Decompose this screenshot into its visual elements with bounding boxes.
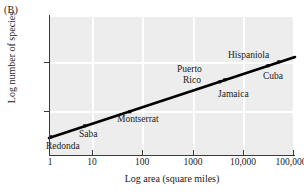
point-label-jamaica: Jamaica	[218, 89, 249, 100]
y-axis-line	[49, 15, 50, 156]
gridline-horizontal-30	[50, 111, 294, 113]
plot-area: Redonda Saba Montserrat Puerto Rico Jama…	[50, 17, 294, 155]
x-tick-10000	[243, 150, 244, 156]
gridline-horizontal-100	[50, 62, 294, 64]
point-label-puerto-rico-line2: Rico	[183, 75, 201, 86]
gridline-vertical-10000	[243, 17, 245, 155]
point-label-redonda: Redonda	[46, 141, 80, 152]
datapoint-jamaica	[223, 78, 226, 81]
y-axis-title: Log number of species	[6, 0, 17, 122]
datapoint-puerto-rico	[218, 80, 221, 83]
point-label-montserrat: Montserrat	[117, 114, 159, 125]
point-label-hispaniola: Hispaniola	[228, 50, 269, 61]
gridline-vertical-100	[142, 17, 144, 155]
x-tick-100000	[293, 150, 294, 156]
y-tick-30	[44, 111, 50, 112]
point-label-saba: Saba	[79, 129, 97, 140]
datapoint-saba	[83, 124, 86, 127]
figure-panel-b: (B) Redonda Saba Montserrat Puerto Rico …	[0, 0, 304, 192]
x-ticklabel-100: 100	[135, 157, 149, 167]
x-ticklabel-10000: 10,000	[230, 157, 256, 167]
datapoint-hispaniola	[266, 64, 269, 67]
x-ticklabel-1000: 1000	[184, 157, 203, 167]
x-axis-title: Log area (square miles)	[50, 173, 294, 184]
datapoint-cuba	[277, 60, 280, 63]
point-label-puerto-rico-line1: Puerto	[177, 64, 202, 75]
x-tick-100	[142, 150, 143, 156]
x-tick-1000	[193, 150, 194, 156]
point-label-cuba: Cuba	[263, 71, 283, 82]
x-ticklabel-10: 10	[87, 157, 97, 167]
gridline-vertical-1000	[193, 17, 195, 155]
y-tick-100	[44, 62, 50, 63]
x-ticklabel-1: 1	[48, 157, 53, 167]
gridline-vertical-100000	[293, 17, 295, 155]
x-tick-10	[92, 150, 93, 156]
x-ticklabel-100000: 100,000	[276, 157, 304, 167]
x-axis-line	[49, 155, 295, 156]
